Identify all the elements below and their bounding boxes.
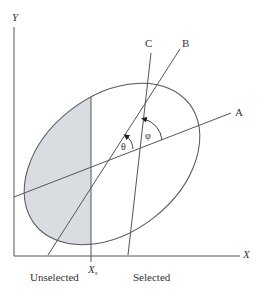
diagram-canvas: Y X A B C θ φ Xs Unselected Selected bbox=[0, 0, 270, 300]
threshold-label: Xs bbox=[87, 263, 98, 277]
unselected-shaded-region bbox=[0, 50, 231, 278]
x-axis-label: X bbox=[242, 248, 251, 260]
line-b-label: B bbox=[182, 37, 189, 49]
line-c-label: C bbox=[145, 37, 152, 49]
theta-angle-arc bbox=[126, 136, 133, 149]
unselected-region-label: Unselected bbox=[30, 271, 79, 283]
y-axis-label: Y bbox=[12, 11, 20, 23]
threshold-label-subscript: s bbox=[95, 269, 98, 277]
theta-label: θ bbox=[121, 141, 126, 152]
selected-region-label: Selected bbox=[133, 271, 171, 283]
line-a-label: A bbox=[235, 106, 243, 118]
phi-label: φ bbox=[145, 130, 151, 141]
